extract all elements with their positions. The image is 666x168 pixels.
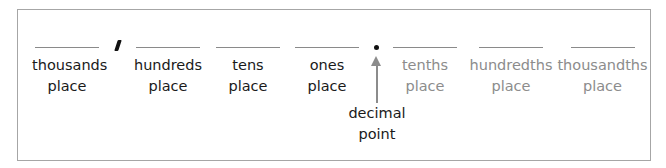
place-name: hundreds	[133, 55, 203, 76]
place-tenths: tenths place	[390, 47, 460, 97]
blank-line	[571, 47, 635, 48]
place-name: hundredths	[461, 55, 561, 76]
place-suffix: place	[213, 76, 283, 97]
place-suffix: place	[292, 76, 362, 97]
place-label: tens place	[213, 55, 283, 97]
place-suffix: place	[550, 76, 655, 97]
place-name: ones	[292, 55, 362, 76]
place-label: hundredths place	[461, 55, 561, 97]
blank-line	[35, 47, 99, 48]
place-label: hundreds place	[133, 55, 203, 97]
place-name: tens	[213, 55, 283, 76]
place-thousandths: thousandths place	[550, 47, 655, 97]
blank-line	[393, 47, 457, 48]
place-thousands: thousands place	[32, 47, 102, 97]
decimal-point-label: decimal point	[331, 103, 423, 145]
place-name: thousandths	[550, 55, 655, 76]
decimal-label-line2: point	[331, 124, 423, 145]
place-name: thousands	[32, 55, 102, 76]
place-hundreds: hundreds place	[133, 47, 203, 97]
place-label: tenths place	[390, 55, 460, 97]
blank-line	[295, 47, 359, 48]
place-label: ones place	[292, 55, 362, 97]
place-hundredths: hundredths place	[461, 47, 561, 97]
blank-line	[136, 47, 200, 48]
blank-line	[479, 47, 543, 48]
place-tens: tens place	[213, 47, 283, 97]
place-suffix: place	[32, 76, 102, 97]
place-ones: ones place	[292, 47, 362, 97]
place-suffix: place	[461, 76, 561, 97]
place-name: tenths	[390, 55, 460, 76]
decimal-label-line1: decimal	[331, 103, 423, 124]
decimal-point-dot	[374, 45, 379, 50]
place-suffix: place	[390, 76, 460, 97]
blank-line	[216, 47, 280, 48]
place-suffix: place	[133, 76, 203, 97]
place-label: thousandths place	[550, 55, 655, 97]
place-label: thousands place	[32, 55, 102, 97]
arrow-shaft	[376, 62, 378, 103]
